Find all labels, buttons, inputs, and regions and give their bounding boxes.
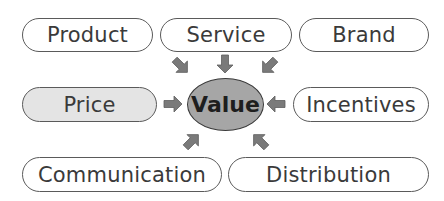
arrow-price-icon <box>164 96 182 112</box>
arrow-distribution-icon <box>248 129 272 153</box>
arrow-incentives-icon <box>267 96 285 112</box>
arrow-product-icon <box>169 54 193 78</box>
arrow-communication-icon <box>180 129 204 153</box>
arrow-brand-icon <box>257 54 281 78</box>
arrows-layer <box>0 0 444 201</box>
arrow-service-icon <box>217 55 233 73</box>
